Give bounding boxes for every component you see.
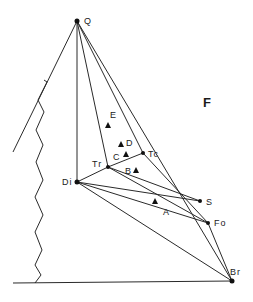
edge-q-tc [77,21,143,153]
vertex-di [75,180,80,185]
edge-di-s [77,182,200,201]
edge-q-tr [77,21,108,167]
label-b: B [125,167,132,176]
phase-diagram [0,0,253,302]
vertex-fo [206,221,210,225]
vertex-s [198,199,202,203]
label-q: Q [84,17,92,26]
label-br: Br [230,268,241,277]
wavy-boundary [35,80,47,283]
label-d: D [126,139,134,148]
vertex-q [75,19,80,24]
sample-e-triangle-icon [105,122,111,128]
label-c: C [113,153,121,162]
label-tc: Tc [148,150,159,159]
label-s: S [206,198,213,207]
vertex-tr [106,165,110,169]
label-fo: Fo [214,219,227,228]
label-a: A [163,208,170,217]
baseline [13,281,232,283]
edge-fo-br [208,223,232,281]
vertex-tc [141,151,145,155]
sample-c-triangle-icon [123,151,129,157]
sample-b-triangle-icon [133,167,139,173]
sample-d-triangle-icon [118,141,124,147]
sample-a-triangle-icon [152,198,158,204]
edge-di-tr [77,167,108,182]
label-e: E [110,111,117,120]
label-tr: Tr [92,160,102,169]
region-label-f: F [203,96,211,109]
vertex-br [230,279,235,284]
label-di: Di [62,178,73,187]
